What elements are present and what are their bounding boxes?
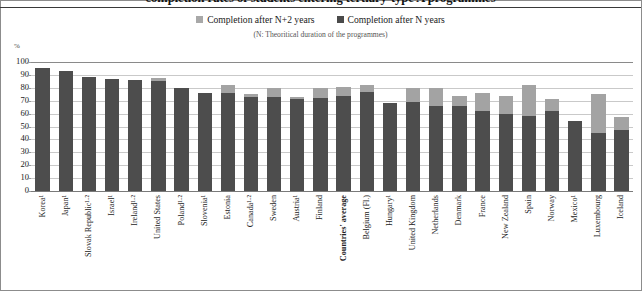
x-axis-tick-label: United Kingdom [409,195,417,250]
y-axis-tick-label: 20 [5,159,29,169]
x-axis-tick-label: United States [154,195,162,239]
bar-column[interactable] [494,62,517,191]
bar-segment-n-years [522,116,536,191]
x-axis-label-slot: Slovak Republic¹·² [77,193,100,288]
bar-column[interactable] [77,62,100,191]
page-title: completion rates of students entering te… [0,0,641,7]
bar-column[interactable] [263,62,286,191]
bar-column[interactable] [517,62,540,191]
x-axis-tick-label: Slovenia¹ [201,195,209,226]
x-axis-label-slot: Finland [309,193,332,288]
y-axis-tick-label: 80 [5,82,29,92]
x-axis-tick-label: Countries' average [340,195,348,261]
x-axis-tick-label: Norway [548,195,556,221]
x-axis-tick-label: Finland [316,195,324,220]
legend-item-n-years[interactable]: Completion after N years [337,14,445,25]
chart-legend: Completion after N+2 years Completion af… [0,14,641,25]
x-axis-label-slot: Iceland [610,193,633,288]
bar-segment-n-years [105,79,119,191]
bar-column[interactable] [471,62,494,191]
x-axis-tick-label: Canada¹·² [247,195,255,227]
bar-column[interactable] [610,62,633,191]
bar-segment-n-plus-2 [406,88,420,102]
bar-column[interactable] [239,62,262,191]
bar-column[interactable] [425,62,448,191]
bar-segment-n-years [336,96,350,191]
x-axis-label-slot: Spain [517,193,540,288]
x-axis-tick-label: Sweden [270,195,278,221]
bar-column[interactable] [124,62,147,191]
bar-segment-n-years [360,92,374,191]
x-axis-label-slot: Netherlands [425,193,448,288]
bar-column[interactable] [309,62,332,191]
x-axis-label-slot: Norway [540,193,563,288]
bar-segment-n-plus-2 [429,88,443,106]
x-axis-labels: Korea¹Japan¹Slovak Republic¹·²Israel¹Ire… [31,193,633,288]
bar-segment-n-plus-2 [522,85,536,116]
x-axis-label-slot: New Zealand [494,193,517,288]
bar-column[interactable] [448,62,471,191]
bar-column[interactable] [564,62,587,191]
x-axis-label-slot: Korea¹ [31,193,54,288]
x-axis-label-slot: Israel¹ [100,193,123,288]
bar-column[interactable] [587,62,610,191]
bar-series-container [31,62,633,191]
bar-segment-n-years [290,99,304,191]
bar-segment-n-years [429,106,443,191]
bar-segment-n-years [267,97,281,191]
x-axis-label-slot: Estonia [216,193,239,288]
x-axis-label-slot: Japan¹ [54,193,77,288]
bar-segment-n-years [614,130,628,191]
gridline [31,191,633,192]
bar-column[interactable] [54,62,77,191]
x-axis-tick-label: New Zealand [502,195,510,239]
x-axis-tick-label: Iceland [617,195,625,219]
bar-column[interactable] [193,62,216,191]
bar-column[interactable] [31,62,54,191]
bar-column[interactable] [355,62,378,191]
bar-column[interactable] [147,62,170,191]
bar-column[interactable] [216,62,239,191]
x-axis-label-slot: Sweden [263,193,286,288]
legend-item-n-plus-2[interactable]: Completion after N+2 years [196,14,314,25]
chart-subtitle: (N: Theoritical duration of the programm… [0,30,641,39]
bar-column[interactable] [332,62,355,191]
x-axis-label-slot: Slovenia¹ [193,193,216,288]
bar-segment-n-years [452,106,466,191]
bar-column[interactable] [170,62,193,191]
legend-label-n-plus-2: Completion after N+2 years [207,14,314,25]
bar-column[interactable] [378,62,401,191]
x-axis-tick-label: Mexico¹ [571,195,579,222]
title-divider [0,7,641,8]
bar-column[interactable] [540,62,563,191]
bar-segment-n-years [221,93,235,191]
bar-segment-n-years [174,88,188,191]
y-axis-tick-label: 50 [5,121,29,131]
y-axis-tick-mark [27,191,31,192]
x-axis-label-slot: United Kingdom [402,193,425,288]
x-axis-tick-label: Japan¹ [62,195,70,216]
x-axis-label-slot: Poland¹·² [170,193,193,288]
bar-column[interactable] [402,62,425,191]
x-axis-tick-label: Denmark [455,195,463,225]
y-axis-tick-label: 0 [5,185,29,195]
bar-segment-n-years [383,103,397,191]
x-axis-label-slot: France [471,193,494,288]
x-axis-label-slot: Luxembourg [587,193,610,288]
bar-segment-n-years [313,98,327,191]
x-axis-tick-label: Estonia [224,195,232,220]
bar-column[interactable] [100,62,123,191]
x-axis-label-slot: Mexico¹ [564,193,587,288]
bar-column[interactable] [286,62,309,191]
bar-segment-n-years [545,111,559,191]
y-axis-tick-label: 30 [5,146,29,156]
bar-segment-n-years [35,68,49,191]
x-axis-tick-label: Netherlands [432,195,440,235]
x-axis-tick-label: Slovak Republic¹·² [85,195,93,257]
bar-segment-n-years [82,77,96,191]
y-axis-tick-label: 70 [5,95,29,105]
x-axis-tick-label: France [478,195,486,217]
y-axis-tick-label: 100 [5,56,29,66]
bar-segment-n-plus-2 [336,87,350,96]
legend-swatch-light-icon [196,16,203,23]
